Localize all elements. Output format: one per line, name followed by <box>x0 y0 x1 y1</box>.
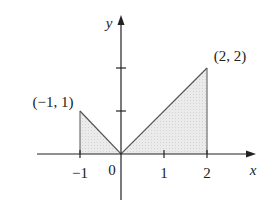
point-label-2-2: (2, 2) <box>214 48 247 65</box>
graph-canvas: −1 0 1 2 x y (−1, 1) (2, 2) <box>0 0 273 200</box>
x-axis-label: x <box>249 162 257 178</box>
x-tick-label-2: 2 <box>203 165 211 181</box>
x-tick-label-1: 1 <box>160 165 168 181</box>
point-label-neg1-1: (−1, 1) <box>33 94 74 111</box>
x-axis-arrow-icon <box>246 151 256 158</box>
origin-label: 0 <box>108 162 116 178</box>
y-axis-arrow-icon <box>118 15 125 25</box>
y-axis-label: y <box>104 15 113 31</box>
x-tick-label-neg1: −1 <box>72 165 88 181</box>
shaded-region <box>80 68 207 154</box>
